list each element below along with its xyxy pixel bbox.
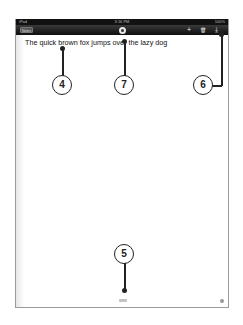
callout-6: 6 (193, 75, 213, 95)
add-icon[interactable]: + (187, 26, 191, 34)
callout-6-leader-horizontal (212, 85, 222, 87)
callout-4: 4 (52, 75, 72, 95)
callout-6-leader-vertical (221, 34, 223, 86)
notes-button[interactable]: Notes (20, 27, 33, 33)
ipad-app-window: iPad 3:16 PM 100% Notes + 🗑 ⤓ The quick … (15, 19, 229, 308)
toolbar: Notes + 🗑 ⤓ (16, 25, 228, 35)
callout-5-leader (124, 263, 126, 290)
page-handle[interactable] (119, 299, 127, 302)
info-icon[interactable] (220, 299, 224, 303)
document-text[interactable]: The quick brown fox jumps over the lazy … (25, 38, 167, 47)
callout-5: 5 (114, 244, 134, 264)
callout-4-leader (62, 48, 64, 76)
callout-7: 7 (114, 75, 134, 95)
trash-icon[interactable]: 🗑 (200, 26, 206, 34)
share-icon[interactable]: ⤓ (215, 26, 218, 34)
left-edge-shade (16, 34, 24, 307)
callout-7-leader (124, 41, 126, 76)
record-circle-icon[interactable] (119, 27, 126, 34)
callout-5-pin (122, 288, 127, 293)
